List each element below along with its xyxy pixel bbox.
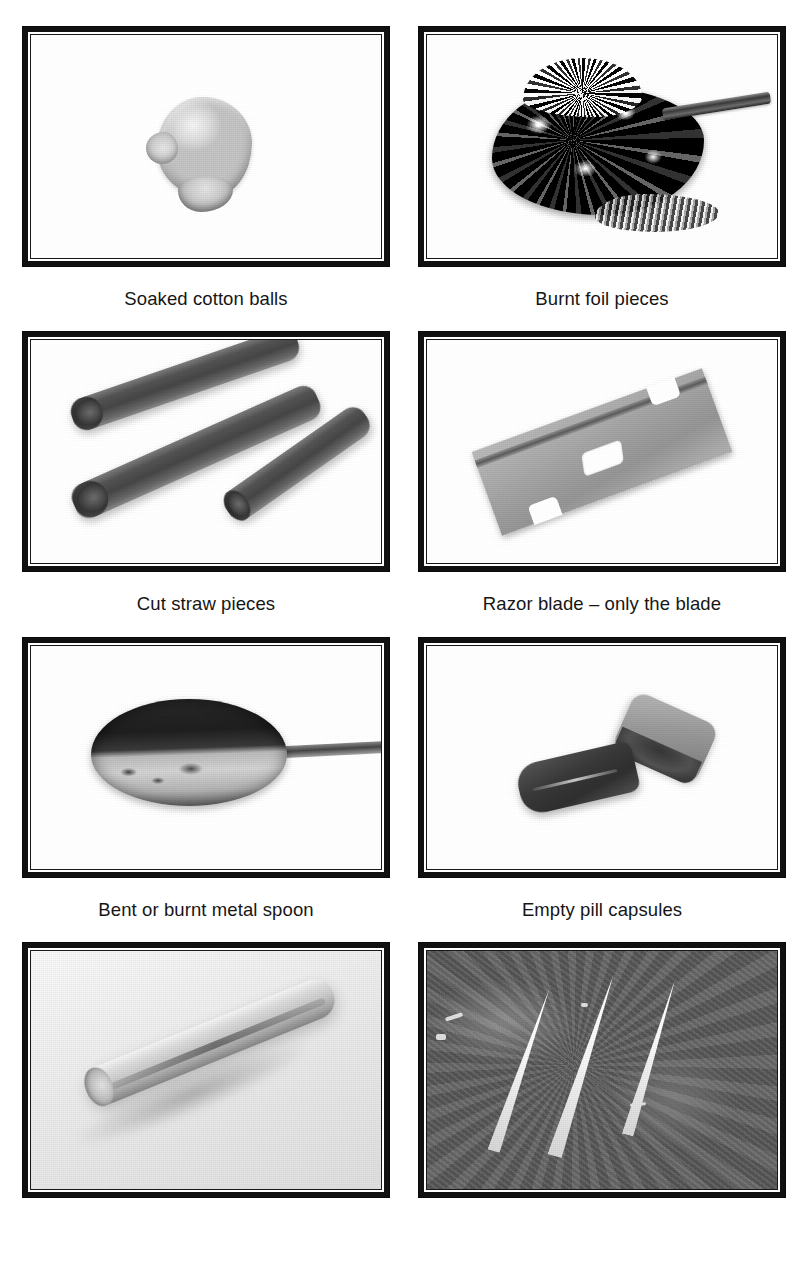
photo-caption: Bent or burnt metal spoon — [98, 900, 313, 920]
empty-pill-capsules-photo — [426, 645, 778, 870]
capsule-body-shape — [514, 740, 641, 817]
razor-blade-group — [472, 368, 733, 536]
photo-frame-inner — [424, 337, 780, 566]
photo-frame — [22, 942, 390, 1198]
surface-speck — [436, 1034, 447, 1039]
photo-frame — [418, 942, 786, 1198]
burnt-foil-pieces-photo — [426, 34, 778, 259]
grid-cell-cut-straw-pieces: Cut straw pieces — [22, 331, 390, 636]
photo-grid: Soaked cotton balls — [22, 26, 786, 1248]
photo-frame — [418, 637, 786, 878]
burnt-metal-spoon-photo — [30, 645, 382, 870]
grid-cell-burnt-foil-pieces: Burnt foil pieces — [418, 26, 786, 331]
page-sheet: Soaked cotton balls — [0, 0, 811, 1264]
grid-row-1: Soaked cotton balls — [22, 26, 786, 331]
photo-frame-inner — [28, 643, 384, 872]
photo-caption: Soaked cotton balls — [124, 289, 287, 309]
razor-blade-photo — [426, 339, 778, 564]
photo-frame — [22, 26, 390, 267]
soaked-cotton-balls-photo — [30, 34, 382, 259]
foil-edge-shape — [595, 194, 719, 232]
cut-straw-pieces-photo — [30, 339, 382, 564]
photo-frame-inner — [28, 337, 384, 566]
grid-cell-powder-lines — [418, 942, 786, 1248]
dark-surface-background — [427, 951, 777, 1189]
photo-caption: Cut straw pieces — [137, 594, 275, 614]
grid-cell-soaked-cotton-balls: Soaked cotton balls — [22, 26, 390, 331]
photo-frame-inner — [424, 643, 780, 872]
photo-frame — [22, 331, 390, 572]
grid-cell-burnt-metal-spoon: Bent or burnt metal spoon — [22, 637, 390, 942]
foil-frill-shape — [523, 58, 642, 117]
grid-row-2: Cut straw pieces — [22, 331, 786, 636]
grid-row-4 — [22, 942, 786, 1248]
photo-caption: Razor blade – only the blade — [483, 594, 721, 614]
photo-frame — [418, 26, 786, 267]
grid-row-3: Bent or burnt metal spoon Empty pill cap… — [22, 637, 786, 942]
rolled-tube-photo — [30, 950, 382, 1190]
foil-group — [476, 62, 735, 236]
photo-frame-inner — [28, 32, 384, 261]
metal-rod-shape — [662, 92, 771, 121]
surface-speck — [581, 1003, 588, 1007]
grid-cell-empty-pill-capsules: Empty pill capsules — [418, 637, 786, 942]
grid-cell-razor-blade: Razor blade – only the blade — [418, 331, 786, 636]
photo-caption: Empty pill capsules — [522, 900, 682, 920]
photo-frame — [418, 331, 786, 572]
photo-frame-inner — [424, 32, 780, 261]
grid-cell-rolled-tube — [22, 942, 390, 1248]
photo-frame — [22, 637, 390, 878]
photo-caption: Burnt foil pieces — [535, 289, 668, 309]
powder-lines-photo — [426, 950, 778, 1190]
photo-frame-inner — [28, 948, 384, 1192]
spoon-bowl-shape — [91, 699, 287, 806]
photo-frame-inner — [424, 948, 780, 1192]
cotton-ball-shape — [157, 97, 252, 197]
